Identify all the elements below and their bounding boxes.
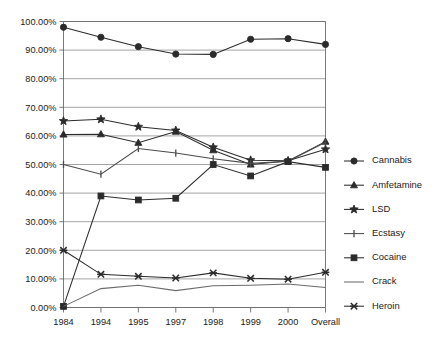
data-point-square xyxy=(173,195,179,201)
chart-background xyxy=(0,0,442,347)
y-tick-label: 100.00% xyxy=(20,17,56,27)
legend-label: Crack xyxy=(372,275,397,286)
data-point-circle xyxy=(98,34,104,40)
x-tick-label: 1994 xyxy=(91,317,111,327)
data-point-circle xyxy=(285,36,291,42)
data-point-circle xyxy=(351,158,357,164)
legend-label: Amfetamine xyxy=(372,179,422,190)
y-tick-label: 0.00% xyxy=(30,303,56,313)
x-tick-label: 1995 xyxy=(128,317,148,327)
data-point-square xyxy=(210,162,216,168)
legend-label: Cocaine xyxy=(372,251,406,262)
chart-canvas: 0.00%10.00%20.00%30.00%40.00%50.00%60.00… xyxy=(0,0,442,347)
line-chart: 0.00%10.00%20.00%30.00%40.00%50.00%60.00… xyxy=(0,0,442,347)
data-point-circle xyxy=(210,51,216,57)
data-point-circle xyxy=(248,36,254,42)
y-tick-label: 70.00% xyxy=(25,103,56,113)
data-point-square xyxy=(323,164,329,170)
x-tick-label: 1999 xyxy=(240,317,260,327)
x-tick-label: 1998 xyxy=(203,317,223,327)
y-tick-label: 50.00% xyxy=(25,160,56,170)
legend-label: Ecstasy xyxy=(372,227,405,238)
x-tick-label: 2000 xyxy=(278,317,298,327)
y-tick-label: 90.00% xyxy=(25,45,56,55)
legend-label: Heroin xyxy=(372,300,400,311)
data-point-square xyxy=(135,197,141,203)
y-tick-label: 30.00% xyxy=(25,217,56,227)
data-point-circle xyxy=(135,44,141,50)
x-tick-label: Overall xyxy=(311,317,340,327)
x-tick-label: 1984 xyxy=(53,317,73,327)
y-tick-label: 60.00% xyxy=(25,131,56,141)
y-tick-label: 20.00% xyxy=(25,246,56,256)
x-tick-label: 1997 xyxy=(166,317,186,327)
y-tick-label: 80.00% xyxy=(25,74,56,84)
legend-label: LSD xyxy=(372,203,390,214)
data-point-square xyxy=(248,173,254,179)
legend-label: Cannabis xyxy=(372,154,412,165)
data-point-square xyxy=(351,255,357,261)
data-point-circle xyxy=(322,41,328,47)
data-point-circle xyxy=(173,51,179,57)
data-point-circle xyxy=(60,24,66,30)
data-point-square xyxy=(98,193,104,199)
y-tick-label: 40.00% xyxy=(25,188,56,198)
data-point-square xyxy=(285,159,291,165)
y-tick-label: 10.00% xyxy=(25,274,56,284)
